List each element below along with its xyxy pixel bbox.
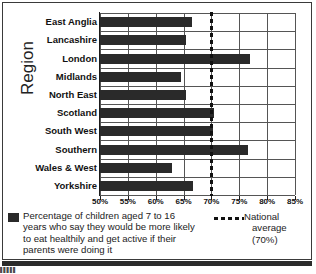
gridline-horizontal: [100, 68, 295, 69]
plot-area: [100, 13, 295, 195]
y-axis-category-label: Wales & West: [5, 163, 97, 173]
x-axis-tick-labels: 50%55%60%65%70%75%80%85%: [100, 197, 300, 209]
y-axis-category-label: Southern: [5, 145, 97, 155]
y-axis-category-labels: East AngliaLancashireLondonMidlandsNorth…: [3, 13, 97, 195]
gridline-horizontal: [100, 104, 295, 105]
y-axis-category-label: Scotland: [5, 108, 97, 118]
corner-marks: ▌▌▌▌▌: [0, 267, 22, 273]
bar: [100, 126, 213, 136]
legend-average-line-1: National: [244, 211, 279, 222]
bar: [100, 35, 186, 45]
y-axis-category-label: Yorkshire: [5, 181, 97, 191]
legend-line-2: years who say they would be more likely: [23, 221, 195, 232]
legend-line-4: parents were doing it: [23, 244, 112, 255]
bar: [100, 145, 248, 155]
bar: [100, 108, 214, 118]
gridline-horizontal: [100, 122, 295, 123]
bar: [100, 90, 186, 100]
y-axis-category-label: South West: [5, 126, 97, 136]
x-axis-tick-label: 50%: [85, 197, 115, 207]
legend-series-label: Percentage of children aged 7 to 16 year…: [23, 210, 218, 256]
chart-screenshot: Region East AngliaLancashireLondonMidlan…: [0, 0, 316, 274]
gridline-horizontal: [100, 49, 295, 50]
national-average-line: [210, 12, 213, 196]
y-axis-category-label: London: [5, 54, 97, 64]
y-axis-category-label: North East: [5, 90, 97, 100]
legend-average-line-2: average (70%): [252, 222, 314, 245]
y-axis-category-label: Midlands: [5, 72, 97, 82]
x-axis-tick-label: 80%: [252, 197, 282, 207]
legend-series-swatch: [8, 213, 19, 222]
gridline-horizontal: [100, 13, 295, 14]
y-axis-category-label: East Anglia: [5, 17, 97, 27]
legend-average-label: National average (70%): [244, 211, 314, 245]
y-axis-category-label: Lancashire: [5, 35, 97, 45]
bar: [100, 181, 193, 191]
x-axis-tick-label: 65%: [169, 197, 199, 207]
x-axis-tick-label: 85%: [280, 197, 310, 207]
gridline-horizontal: [100, 31, 295, 32]
bar: [100, 54, 250, 64]
bar: [100, 17, 192, 27]
legend-line-3: to eat healthily and get active if their: [23, 233, 176, 244]
bar: [100, 72, 181, 82]
legend-average-dash-icon: [214, 217, 244, 220]
bar: [100, 163, 172, 173]
bottom-band: [2, 261, 312, 266]
x-axis-tick-label: 60%: [141, 197, 171, 207]
legend-line-1: Percentage of children aged 7 to 16: [23, 210, 175, 221]
x-axis-tick-label: 55%: [113, 197, 143, 207]
gridline-horizontal: [100, 195, 295, 196]
gridline-vertical: [295, 13, 296, 195]
gridline-horizontal: [100, 177, 295, 178]
gridline-horizontal: [100, 159, 295, 160]
chart-legend: Percentage of children aged 7 to 16 year…: [6, 210, 308, 258]
x-axis-tick-label: 70%: [196, 197, 226, 207]
gridline-horizontal: [100, 86, 295, 87]
gridline-horizontal: [100, 140, 295, 141]
x-axis-tick-label: 75%: [224, 197, 254, 207]
